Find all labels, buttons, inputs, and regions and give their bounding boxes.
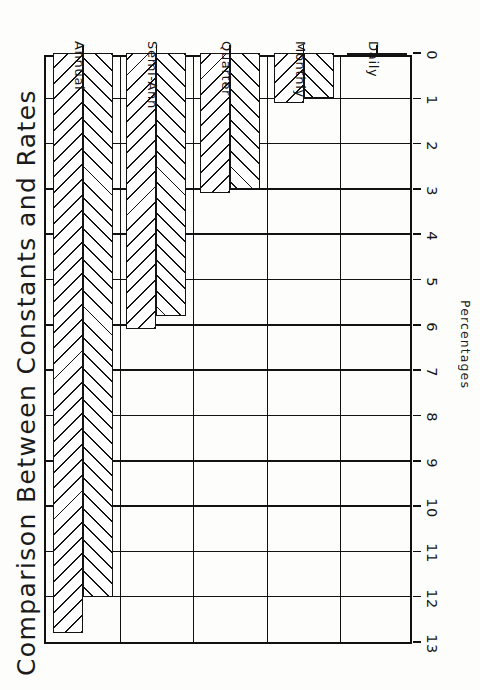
category-separator <box>193 57 194 642</box>
chart-title: Comparison Between Constants and Rates <box>12 89 41 676</box>
axis-tick <box>413 551 421 553</box>
axis-tick <box>413 641 421 643</box>
category-separator <box>120 57 121 642</box>
axis-tick-label: 6 <box>424 307 440 347</box>
axis-tick-label: 13 <box>424 624 440 664</box>
bar-monthly-interest-rates <box>304 53 334 98</box>
axis-tick <box>413 143 421 145</box>
axis-tick <box>413 460 421 462</box>
category-label-quarter: Quarter <box>219 41 234 96</box>
axis-tick <box>413 188 421 190</box>
axis-tick <box>413 324 421 326</box>
x-axis-label: Percentages <box>458 301 473 390</box>
axis-tick-label: 7 <box>424 352 440 392</box>
category-label-semi-ann: Semi-Ann <box>145 41 160 109</box>
rotated-figure-wrapper: Comparison Between Constants and Rates B… <box>0 0 480 690</box>
axis-tick <box>413 98 421 100</box>
category-separator <box>267 57 268 642</box>
axis-tick-label: 4 <box>424 216 440 256</box>
axis-tick <box>413 52 421 54</box>
axis-tick-label: 10 <box>424 488 440 528</box>
category-label-monthly: Monthly <box>293 41 308 98</box>
axis-tick <box>413 279 421 281</box>
bar-quarter-interest-rates <box>230 53 260 189</box>
axis-tick <box>413 505 421 507</box>
axis-tick-label: 0 <box>424 35 440 75</box>
bar-daily-interest-rates <box>377 53 407 55</box>
axis-tick-label: 2 <box>424 126 440 166</box>
bar-annual-interest-rates <box>83 53 113 597</box>
bar-annual-mortgage-constants <box>53 53 83 633</box>
axis-tick-label: 12 <box>424 579 440 619</box>
axis-tick-label: 9 <box>424 443 440 483</box>
chart-figure: Comparison Between Constants and Rates B… <box>0 0 480 690</box>
axis-tick-label: 5 <box>424 262 440 302</box>
axis-tick <box>413 369 421 371</box>
axis-tick <box>413 596 421 598</box>
category-label-daily: Daily <box>366 41 381 77</box>
axis-tick-label: 8 <box>424 397 440 437</box>
category-separator <box>340 57 341 642</box>
axis-tick <box>413 233 421 235</box>
plot-area <box>44 55 412 644</box>
axis-tick-label: 3 <box>424 171 440 211</box>
axis-tick <box>413 415 421 417</box>
axis-tick-label: 11 <box>424 533 440 573</box>
category-label-annual: Annual <box>72 41 87 90</box>
axis-tick-label: 1 <box>424 80 440 120</box>
bar-semi-ann-interest-rates <box>156 53 186 316</box>
